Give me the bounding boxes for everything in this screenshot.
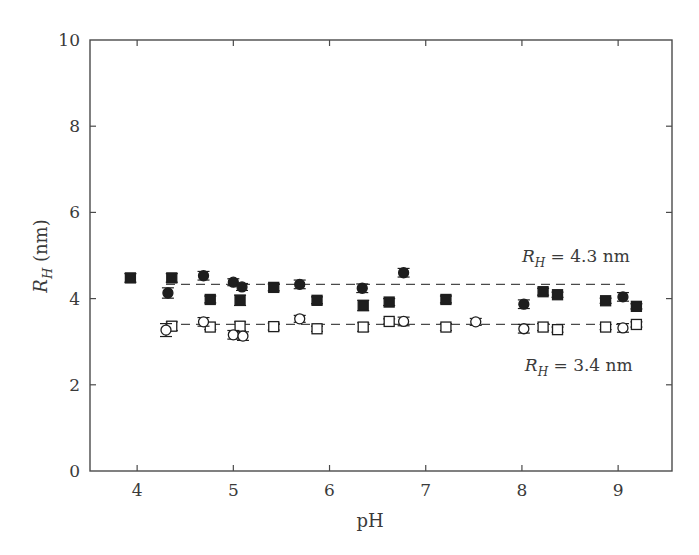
- data-point: [124, 273, 136, 283]
- data-point: [398, 316, 410, 326]
- fit-annotation: RH = 3.4 nm: [524, 355, 633, 379]
- open-circle-marker: [161, 325, 171, 335]
- data-point: [237, 331, 249, 341]
- filled-circle-marker: [618, 292, 628, 302]
- open-square-marker: [269, 322, 279, 332]
- x-axis-title: pH: [356, 510, 383, 531]
- x-tick-label: 9: [613, 480, 624, 500]
- data-point: [166, 273, 178, 283]
- filled-circle-marker: [295, 279, 305, 289]
- filled-square-marker: [601, 296, 611, 306]
- open-circle-marker: [618, 323, 628, 333]
- filled-square-marker: [538, 287, 548, 297]
- data-point: [518, 324, 530, 334]
- open-square-marker: [538, 322, 548, 332]
- filled-square-marker: [631, 301, 641, 311]
- open-circle-marker: [399, 316, 409, 326]
- filled-square-marker: [358, 300, 368, 310]
- filled-circle-marker: [163, 288, 173, 298]
- y-tick-label: 10: [58, 30, 80, 50]
- data-point: [630, 319, 642, 329]
- filled-square-marker: [235, 295, 245, 305]
- data-point: [552, 325, 564, 335]
- open-square-marker: [358, 322, 368, 332]
- filled-square-marker: [441, 294, 451, 304]
- filled-circle-marker: [199, 271, 209, 281]
- data-point: [537, 322, 549, 332]
- data-point: [234, 321, 246, 331]
- data-point: [357, 322, 369, 332]
- x-tick-label: 7: [420, 480, 431, 500]
- filled-square-marker: [167, 273, 177, 283]
- data-point: [268, 322, 280, 332]
- data-point: [294, 314, 306, 324]
- scatter-chart: 456789 0246810 RH = 4.3 nmRH = 3.4 nm pH…: [0, 0, 699, 555]
- y-axis-title: RH (nm): [30, 219, 55, 293]
- data-point: [600, 322, 612, 332]
- filled-square-marker: [312, 295, 322, 305]
- open-square-marker: [553, 325, 563, 335]
- data-point: [617, 292, 629, 302]
- data-point: [440, 322, 452, 332]
- filled-square-marker: [269, 282, 279, 292]
- x-tick-label: 8: [517, 480, 528, 500]
- open-circle-marker: [471, 317, 481, 327]
- data-point: [204, 294, 216, 304]
- data-point: [440, 294, 452, 304]
- filled-circle-marker: [237, 282, 247, 292]
- x-tick-label: 4: [132, 480, 143, 500]
- open-square-marker: [312, 324, 322, 334]
- open-square-marker: [441, 322, 451, 332]
- y-tick-label: 6: [69, 202, 80, 222]
- open-square-marker: [384, 316, 394, 326]
- data-point: [617, 323, 629, 333]
- annotations: RH = 4.3 nmRH = 3.4 nm: [521, 246, 633, 379]
- filled-circle-marker: [399, 268, 409, 278]
- open-circle-marker: [295, 314, 305, 324]
- open-circle-marker: [199, 317, 209, 327]
- x-tick-label: 5: [228, 480, 239, 500]
- open-circle-marker: [238, 331, 248, 341]
- open-square-marker: [601, 322, 611, 332]
- y-tick-label: 0: [69, 461, 80, 481]
- fit-annotation: RH = 4.3 nm: [521, 246, 630, 270]
- data-point: [383, 316, 395, 326]
- data-point: [600, 296, 612, 306]
- filled-square-marker: [125, 273, 135, 283]
- data-markers: [124, 268, 642, 341]
- filled-circle-marker: [357, 283, 367, 293]
- data-point: [236, 282, 248, 292]
- open-square-marker: [631, 319, 641, 329]
- data-point: [311, 295, 323, 305]
- y-tick-label: 8: [69, 116, 80, 136]
- data-point: [294, 279, 306, 289]
- data-point: [537, 287, 549, 297]
- data-point: [198, 317, 210, 327]
- data-point: [398, 268, 410, 278]
- filled-square-marker: [205, 294, 215, 304]
- data-point: [383, 297, 395, 307]
- data-point: [234, 295, 246, 305]
- data-point: [198, 271, 210, 281]
- data-point: [162, 288, 174, 298]
- data-point: [552, 290, 564, 300]
- data-point: [518, 299, 530, 309]
- x-tick-label: 6: [324, 480, 335, 500]
- filled-square-marker: [553, 290, 563, 300]
- data-point: [470, 317, 482, 327]
- y-tick-label: 2: [69, 375, 80, 395]
- filled-circle-marker: [519, 299, 529, 309]
- data-point: [268, 282, 280, 292]
- data-point: [311, 324, 323, 334]
- open-square-marker: [235, 321, 245, 331]
- open-circle-marker: [228, 330, 238, 340]
- x-axis-ticks: 456789: [132, 40, 624, 500]
- open-circle-marker: [519, 324, 529, 334]
- data-point: [630, 301, 642, 311]
- filled-square-marker: [384, 297, 394, 307]
- data-point: [357, 300, 369, 310]
- data-point: [356, 283, 368, 293]
- y-tick-label: 4: [69, 289, 80, 309]
